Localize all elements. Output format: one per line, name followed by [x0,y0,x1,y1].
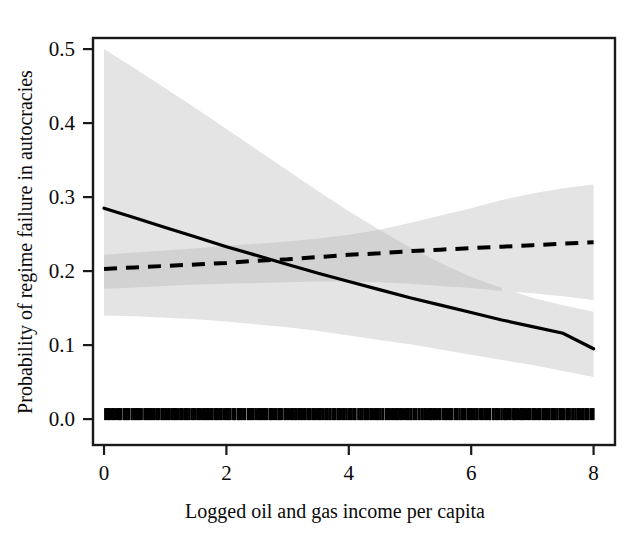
x-axis-ticks [104,445,594,455]
y-tick-label: 0.1 [49,333,75,357]
chart-figure: 02468 0.00.10.20.30.40.5 Logged oil and … [0,0,641,537]
rug-marks [105,408,593,420]
x-tick-label: 4 [344,461,355,485]
chart-svg: 02468 0.00.10.20.30.40.5 Logged oil and … [0,0,641,537]
x-tick-label: 2 [221,461,232,485]
y-tick-label: 0.2 [49,259,75,283]
y-tick-label: 0.5 [49,37,75,61]
x-axis-tick-labels: 02468 [99,461,599,485]
y-axis-title: Probability of regime failure in autocra… [14,70,37,414]
x-tick-label: 6 [466,461,477,485]
x-tick-label: 0 [99,461,110,485]
y-tick-label: 0.0 [49,407,75,431]
y-tick-label: 0.3 [49,185,75,209]
y-axis-tick-labels: 0.00.10.20.30.40.5 [49,37,76,431]
x-axis-title: Logged oil and gas income per capita [185,500,485,523]
x-tick-label: 8 [588,461,599,485]
y-axis-ticks [83,49,93,419]
y-tick-label: 0.4 [49,111,76,135]
